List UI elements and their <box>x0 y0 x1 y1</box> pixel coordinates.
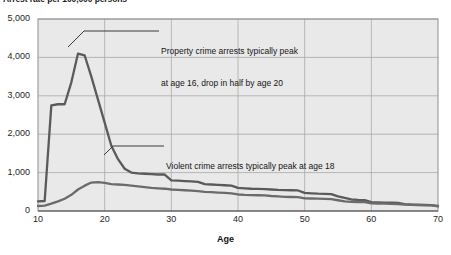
x-tick-label: 30 <box>156 214 186 224</box>
property-peak-note-line1: Property crime arrests typically peak <box>161 46 298 57</box>
property-peak-note-line2: at age 16, drop in half by age 20 <box>161 78 298 89</box>
property-peak-note: Property crime arrests typically peak at… <box>161 25 298 109</box>
y-tick-label: 2,000 <box>0 128 30 138</box>
violent-peak-note-line1: Violent crime arrests typically peak at … <box>166 161 335 172</box>
x-tick-label: 20 <box>90 214 120 224</box>
x-tick-label: 40 <box>223 214 253 224</box>
arrest-rate-chart: Arrest rate per 100,000 persons 01,0002,… <box>0 0 451 255</box>
x-axis-label: Age <box>0 234 451 244</box>
x-tick-label: 70 <box>423 214 451 224</box>
y-tick-label: 5,000 <box>0 13 30 23</box>
y-tick-label: 1,000 <box>0 167 30 177</box>
x-tick-label: 10 <box>23 214 53 224</box>
x-tick-label: 60 <box>356 214 386 224</box>
violent-peak-note: Violent crime arrests typically peak at … <box>166 140 335 193</box>
y-tick-label: 4,000 <box>0 51 30 61</box>
x-tick-label: 50 <box>290 214 320 224</box>
y-tick-label: 3,000 <box>0 90 30 100</box>
